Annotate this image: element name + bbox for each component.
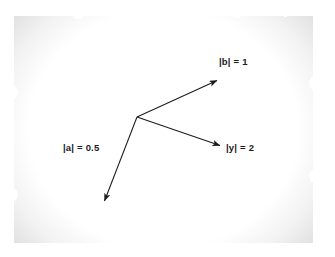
vector-b-label: |b| = 1 [219, 56, 248, 67]
vector-y-label: |y| = 2 [226, 142, 254, 153]
vector-plot [0, 0, 335, 257]
figure-canvas: |b| = 1 |y| = 2 |a| = 0.5 [0, 0, 335, 257]
vector-a-shaft [105, 117, 138, 201]
vector-y-shaft [137, 117, 220, 146]
vector-y [137, 117, 220, 146]
vector-b [137, 81, 217, 118]
vector-b-shaft [137, 81, 217, 118]
vector-a [105, 117, 138, 201]
vector-a-label: |a| = 0.5 [63, 142, 99, 153]
